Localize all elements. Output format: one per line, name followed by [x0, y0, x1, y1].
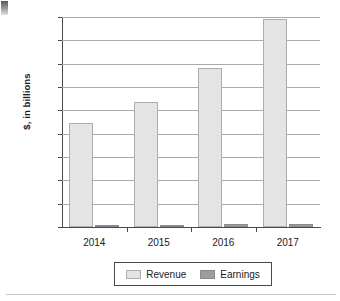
y-tick-mark: [58, 110, 62, 111]
bar-earnings-2015: [160, 225, 184, 227]
x-tick-label-2017: 2017: [258, 237, 318, 248]
gridline: [62, 17, 320, 18]
legend-swatch-earnings: [200, 270, 215, 279]
legend-label-earnings: Earnings: [220, 269, 259, 280]
y-tick-mark: [58, 17, 62, 18]
x-tick-mark: [127, 227, 128, 232]
legend-entry-earnings: Earnings: [200, 269, 259, 280]
scan-artifact-corner: [1, 1, 8, 15]
x-tick-mark: [256, 227, 257, 232]
bar-revenue-2017: [263, 19, 287, 227]
x-tick-label-2014: 2014: [64, 237, 124, 248]
legend-swatch-revenue: [126, 270, 141, 279]
y-tick-mark: [58, 64, 62, 65]
y-tick-mark: [58, 157, 62, 158]
bar-chart-figure: $, in billions 0204060801001201401601802…: [0, 0, 340, 301]
plot-area: 0204060801001201401601802014201520162017: [62, 17, 320, 227]
x-tick-label-2016: 2016: [193, 237, 253, 248]
legend-label-revenue: Revenue: [146, 269, 186, 280]
y-tick-mark: [58, 180, 62, 181]
bar-revenue-2015: [134, 102, 158, 227]
scan-artifact-page-edge: [6, 294, 336, 295]
y-tick-mark: [58, 40, 62, 41]
legend-entry-revenue: Revenue: [126, 269, 186, 280]
chart-legend: Revenue Earnings: [114, 262, 272, 286]
bar-earnings-2016: [224, 224, 248, 227]
x-tick-label-2015: 2015: [129, 237, 189, 248]
bar-revenue-2016: [198, 68, 222, 227]
y-tick-mark: [58, 204, 62, 205]
bar-earnings-2017: [289, 224, 313, 228]
y-tick-mark: [58, 134, 62, 135]
y-axis-title: $, in billions: [21, 32, 32, 172]
bar-earnings-2014: [95, 225, 119, 227]
y-tick-mark: [58, 87, 62, 88]
x-tick-mark: [191, 227, 192, 232]
y-tick-mark: [58, 227, 62, 228]
bar-revenue-2014: [69, 123, 93, 227]
